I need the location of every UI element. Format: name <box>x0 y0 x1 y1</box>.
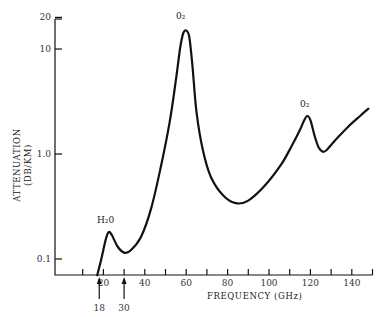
x-tick-label: 60 <box>180 278 192 288</box>
attenuation-curve <box>97 30 368 275</box>
frequency-markers: 1830 <box>94 277 131 313</box>
x-tick-label: 40 <box>139 278 151 288</box>
y-tick-label: 20 <box>40 12 52 22</box>
arrow-up-icon <box>122 277 127 284</box>
marker-label: 30 <box>118 303 130 313</box>
x-axis-title: FREQUENCY (GHz) <box>207 291 302 301</box>
x-tick-label: 140 <box>343 278 360 288</box>
attenuation-chart: 20101.00.1 20406080100120140 1830 ATTENU… <box>0 0 387 317</box>
y-axis-title: ATTENUATION <box>12 128 22 202</box>
y-tick-label: 1.0 <box>37 149 52 159</box>
axis-lines <box>55 19 373 275</box>
marker-label: 18 <box>94 303 106 313</box>
annotation-o2-118: 0₂ <box>300 99 310 109</box>
y-tick-labels: 20101.00.1 <box>37 12 52 264</box>
x-tick-label: 80 <box>222 278 234 288</box>
y-tick-label: 0.1 <box>37 254 51 264</box>
y-tick-label: 10 <box>40 44 52 54</box>
x-tick-label: 120 <box>302 278 319 288</box>
axes <box>55 17 373 275</box>
x-tick-label: 100 <box>260 278 277 288</box>
annotation-h2o: H₂0 <box>97 215 114 225</box>
x-tick-labels: 20406080100120140 <box>98 278 361 288</box>
y-axis-units: (DB/KM) <box>23 144 33 186</box>
annotation-o2-60: 0₂ <box>176 11 186 21</box>
